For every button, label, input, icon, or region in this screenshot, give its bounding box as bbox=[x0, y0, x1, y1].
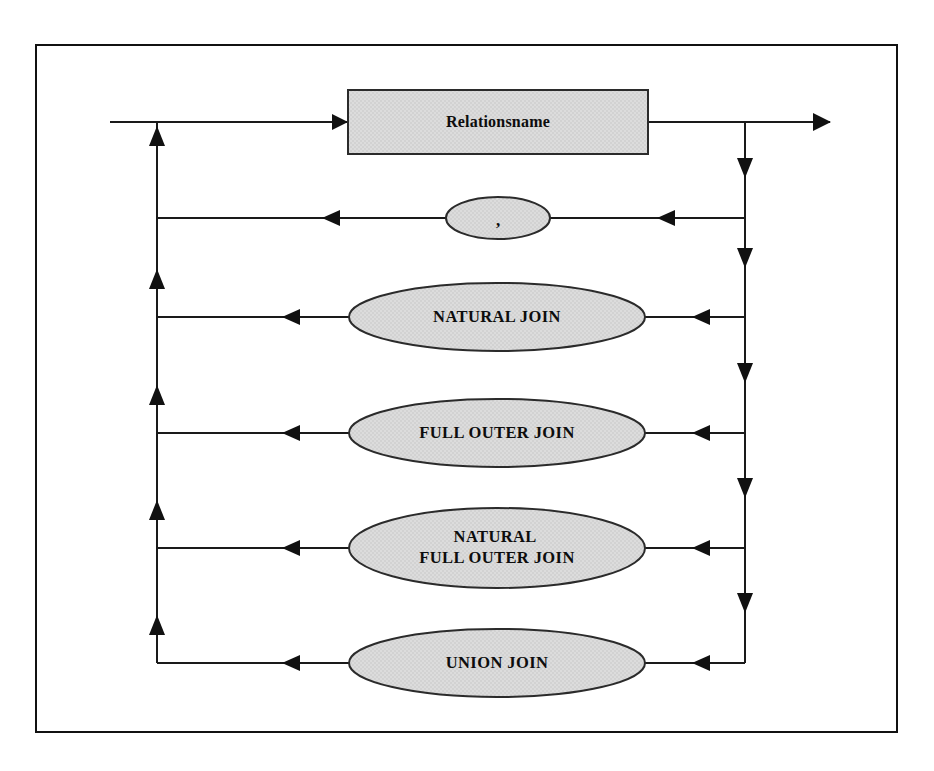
node-full-outer-join[interactable]: FULL OUTER JOIN bbox=[349, 399, 645, 467]
node-union-join-label: UNION JOIN bbox=[446, 653, 549, 672]
node-union-join[interactable]: UNION JOIN bbox=[349, 629, 645, 697]
railroad-diagram-canvas: Relationsname , NATURAL JOIN FULL OUTER … bbox=[0, 0, 934, 771]
node-natural-full-outer-join-line-2: FULL OUTER JOIN bbox=[419, 548, 574, 567]
node-natural-join[interactable]: NATURAL JOIN bbox=[349, 283, 645, 351]
node-relationsname-label: Relationsname bbox=[446, 113, 550, 130]
node-natural-join-label: NATURAL JOIN bbox=[433, 307, 561, 326]
node-full-outer-join-label: FULL OUTER JOIN bbox=[419, 423, 574, 442]
node-comma-label: , bbox=[496, 211, 500, 230]
node-natural-full-outer-join-line-1: NATURAL bbox=[454, 527, 537, 546]
node-natural-full-outer-join[interactable]: NATURAL FULL OUTER JOIN bbox=[349, 508, 645, 588]
railroad-diagram-svg: Relationsname , NATURAL JOIN FULL OUTER … bbox=[0, 0, 934, 771]
node-relationsname[interactable]: Relationsname bbox=[348, 90, 648, 154]
node-comma[interactable]: , bbox=[446, 197, 550, 239]
